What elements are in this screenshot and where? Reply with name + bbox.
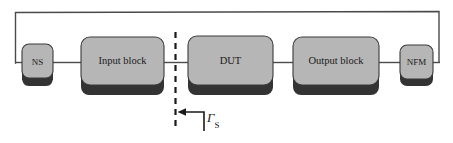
gamma-s-annotation-label: ΓS <box>207 110 219 128</box>
block-ns <box>22 44 53 86</box>
block-diagram-figure: NS Input block DUT Output block NFM ΓS <box>0 0 453 143</box>
block-dut <box>188 36 273 95</box>
block-input <box>81 37 164 95</box>
gamma-s-arrow <box>178 108 205 131</box>
diagram-canvas <box>0 0 453 143</box>
gamma-subscript: S <box>214 120 219 130</box>
block-output <box>293 37 379 95</box>
block-nfm <box>400 45 433 86</box>
